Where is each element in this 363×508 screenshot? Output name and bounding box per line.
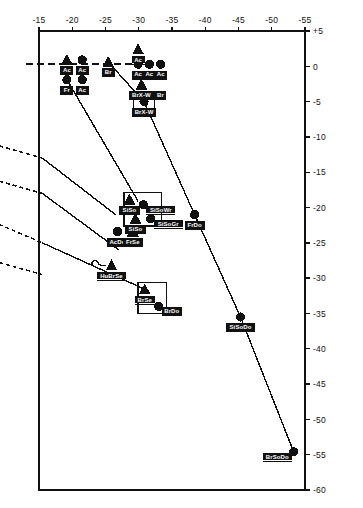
x-tick-6: -45: [232, 15, 245, 25]
connector-line-2: [144, 102, 195, 215]
dashed-line-2: [0, 179, 42, 193]
connector-line-3: [195, 215, 241, 317]
point-label-BrX-W: BrX-W: [132, 108, 157, 116]
connector-line-0: [67, 80, 138, 201]
connector-line-5: [42, 158, 115, 214]
figure-root: -15-20-25-30-35-40-45-50-55 +50-5-10-15-…: [0, 0, 363, 508]
y-tick-11: -50: [313, 415, 326, 425]
x-tick-4: -35: [166, 15, 179, 25]
marker-circle-Ac: [156, 60, 165, 69]
x-tick-3: -30: [132, 15, 145, 25]
point-label-SiSo: SiSo: [125, 225, 145, 233]
marker-triangle-Ac: [61, 54, 73, 65]
dashed-line-4: [0, 261, 42, 275]
connector-loop: [92, 261, 105, 266]
marker-circle-FrDo: [190, 210, 199, 219]
marker-circle-Ac: [145, 60, 154, 69]
point-label-FrSe: FrSe: [123, 238, 143, 246]
x-tick-8: -55: [299, 15, 312, 25]
point-label-Ac: Ac: [132, 56, 145, 64]
scatter-plot-svg: -15-20-25-30-35-40-45-50-55 +50-5-10-15-…: [0, 0, 363, 508]
point-label-BrSe: BrSe: [135, 296, 155, 304]
y-tick-12: -55: [313, 450, 326, 460]
svg-text:SiSo: SiSo: [123, 207, 137, 213]
svg-text:Ac: Ac: [134, 71, 142, 77]
x-tick-2: -25: [99, 15, 112, 25]
point-label-Fr: Fr: [60, 86, 73, 94]
point-label-Ac: Ac: [60, 66, 73, 74]
point-label-Br: Br: [102, 68, 115, 76]
point-label-Ac: Ac: [154, 71, 167, 79]
marker-triangle-HuBrSe: [106, 259, 118, 270]
svg-text:Br: Br: [105, 69, 112, 75]
point-label-HuBrSe: HuBrSe: [97, 272, 126, 280]
marker-circle-AcDo: [113, 227, 122, 236]
y-tick-1: 0: [313, 62, 318, 72]
y-tick-5: -20: [313, 203, 326, 213]
svg-text:Ac: Ac: [157, 71, 165, 77]
y-tick-8: -35: [313, 309, 326, 319]
svg-text:BrDo: BrDo: [164, 308, 179, 314]
svg-text:SiSoGr: SiSoGr: [158, 221, 180, 227]
y-tick-9: -40: [313, 344, 326, 354]
y-tick-6: -25: [313, 238, 326, 248]
svg-text:SiSoWr: SiSoWr: [150, 207, 172, 213]
y-axis-tick-labels: +50-5-10-15-20-25-30-35-40-45-50-55-60: [313, 26, 326, 495]
marker-circle-Fr: [62, 75, 71, 84]
svg-text:Ac: Ac: [63, 67, 71, 73]
point-label-BrSoDo: BrSoDo: [263, 453, 292, 461]
y-tick-3: -10: [313, 132, 326, 142]
marker-triangle-BrSe: [139, 283, 151, 294]
svg-text:Ac: Ac: [134, 57, 142, 63]
svg-text:FrSe: FrSe: [126, 239, 140, 245]
point-label-SiSoWr: SiSoWr: [146, 206, 175, 214]
point-label-Ac: Ac: [132, 71, 145, 79]
x-axis-tick-labels: -15-20-25-30-35-40-45-50-55: [33, 15, 312, 25]
point-label-Ac: Ac: [143, 71, 156, 79]
y-tick-0: +5: [313, 26, 323, 36]
y-tick-13: -60: [313, 485, 326, 495]
connector-lines: [42, 62, 293, 452]
marker-triangle-SiSo: [124, 194, 136, 205]
svg-text:BrX-W: BrX-W: [132, 92, 151, 98]
data-point-labels: AcAcFrAcBrAcAcAcAcBrX-WBrBrX-WSiSoSiSoWr…: [60, 56, 291, 462]
y-tick-4: -15: [313, 167, 326, 177]
x-tick-7: -50: [265, 15, 278, 25]
point-label-SiSoDo: SiSoDo: [226, 323, 255, 331]
connector-line-6: [42, 193, 118, 249]
svg-text:Ac: Ac: [145, 71, 153, 77]
point-label-FrDo: FrDo: [185, 221, 205, 229]
marker-circle-SiSoDo: [236, 312, 245, 321]
point-label-SiSoGr: SiSoGr: [154, 220, 183, 228]
connector-line-7: [42, 243, 142, 288]
svg-text:Ac: Ac: [78, 67, 86, 73]
dashed-line-1: [0, 144, 42, 158]
svg-text:SiSo: SiSo: [129, 226, 143, 232]
marker-triangle-BrX-W: [136, 78, 148, 89]
svg-text:HuBrSe: HuBrSe: [100, 273, 123, 279]
marker-circle-Ac: [78, 55, 87, 64]
point-label-Ac: Ac: [76, 86, 89, 94]
marker-circle-Ac: [78, 75, 87, 84]
plot-axes: [39, 27, 310, 490]
connector-line-4: [240, 317, 293, 452]
point-label-Br-secondary: Br: [155, 91, 167, 99]
y-tick-2: -5: [313, 97, 321, 107]
dashed-line-3: [0, 222, 42, 243]
svg-text:BrX-W: BrX-W: [135, 109, 154, 115]
point-label-SiSo: SiSo: [119, 206, 139, 214]
y-tick-10: -45: [313, 379, 326, 389]
svg-text:BrSoDo: BrSoDo: [266, 454, 289, 460]
svg-text:Ac: Ac: [78, 87, 86, 93]
svg-text:SiSoDo: SiSoDo: [230, 324, 252, 330]
svg-text:Br: Br: [157, 92, 164, 98]
svg-text:Fr: Fr: [64, 87, 71, 93]
marker-triangle-Ac: [132, 43, 144, 54]
point-label-BrDo: BrDo: [162, 307, 182, 315]
y-tick-7: -30: [313, 273, 326, 283]
marker-triangle-Br: [102, 56, 114, 67]
x-tick-5: -40: [199, 15, 212, 25]
point-label-Ac: Ac: [76, 66, 89, 74]
data-point-markers: [61, 43, 298, 456]
x-tick-1: -20: [66, 15, 79, 25]
